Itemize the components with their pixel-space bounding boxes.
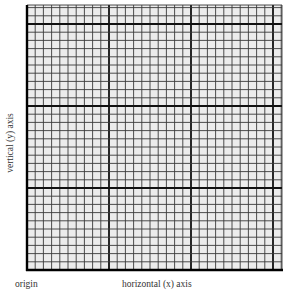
- origin-label: origin: [15, 279, 38, 289]
- graph-paper-grid: [0, 0, 288, 293]
- y-axis-label: vertical (y) axis: [5, 113, 15, 173]
- x-axis-label: horizontal (x) axis: [122, 279, 192, 289]
